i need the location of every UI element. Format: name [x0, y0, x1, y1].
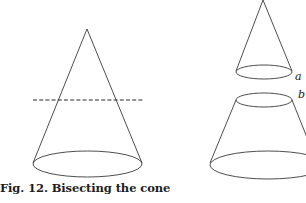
whole-cone-base [33, 151, 142, 177]
frustum-right-edge [292, 100, 306, 150]
whole-cone-left-edge [33, 29, 87, 163]
frustum-base [210, 151, 306, 179]
figure-caption: Fig. 12. Bisecting the cone [0, 181, 170, 195]
label-b: b [298, 88, 305, 101]
top-piece-base [236, 65, 292, 79]
label-a: a [295, 70, 302, 83]
cone-top-piece: a [236, 0, 302, 83]
bisected-cone-diagram: a b [0, 0, 306, 203]
top-piece-left-edge [236, 0, 263, 71]
top-piece-right-edge [263, 0, 292, 71]
whole-cone-right-edge [87, 29, 142, 163]
frustum-top [236, 93, 292, 107]
whole-cone [33, 29, 143, 177]
frustum-piece: b [210, 88, 306, 179]
